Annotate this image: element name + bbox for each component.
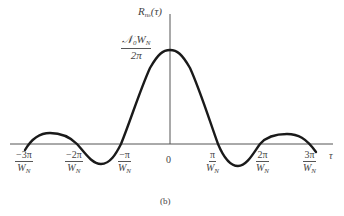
tick-label-3pi: 3π WN [303, 150, 316, 175]
tick-label-pi: π WN [206, 150, 219, 175]
tick-label-zero: 0 [166, 155, 171, 165]
tick-label-neg-2pi: −2π WN [65, 150, 83, 175]
tick-label-neg-3pi: −3π WN [15, 150, 33, 175]
x-axis-label: τ [329, 151, 333, 161]
peak-value-label: 𝒩0WN 2π [121, 34, 151, 61]
y-axis-label: Rnb(τ) [138, 6, 162, 19]
figure-caption: (b) [160, 197, 171, 206]
tick-label-neg-pi: −π WN [118, 150, 131, 175]
tick-label-2pi: 2π WN [256, 150, 269, 175]
autocorrelation-plot [0, 0, 344, 216]
